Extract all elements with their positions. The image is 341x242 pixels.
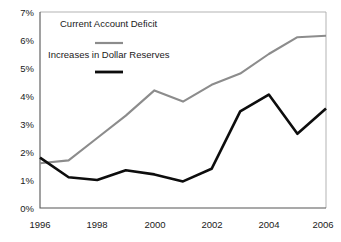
x-tick-label-1998: 1998 bbox=[86, 219, 107, 230]
y-tick-label-7: 7% bbox=[20, 7, 34, 18]
x-tick-label-2006: 2006 bbox=[312, 219, 333, 230]
x-tick-label-2000: 2000 bbox=[144, 219, 165, 230]
legend-label-current-account-deficit: Current Account Deficit bbox=[60, 18, 158, 29]
line-chart: 7% 6% 5% 4% 3% 2% 1% 0% 1996 1998 2000 2… bbox=[0, 0, 341, 242]
x-tick-label-2004: 2004 bbox=[258, 219, 279, 230]
legend-label-increases-in-dollar-reserves: Increases in Dollar Reserves bbox=[48, 49, 170, 60]
y-tick-label-5: 5% bbox=[20, 63, 34, 74]
x-tick-label-2002: 2002 bbox=[201, 219, 222, 230]
chart-container: 7% 6% 5% 4% 3% 2% 1% 0% 1996 1998 2000 2… bbox=[0, 0, 341, 242]
series-line-increases-in-dollar-reserves bbox=[40, 95, 326, 182]
y-tick-label-2: 2% bbox=[20, 147, 34, 158]
y-tick-label-1: 1% bbox=[20, 175, 34, 186]
y-tick-label-4: 4% bbox=[20, 91, 34, 102]
y-tick-label-0: 0% bbox=[20, 203, 34, 214]
y-tick-label-3: 3% bbox=[20, 119, 34, 130]
y-tick-label-6: 6% bbox=[20, 35, 34, 46]
x-tick-label-1996: 1996 bbox=[29, 219, 50, 230]
